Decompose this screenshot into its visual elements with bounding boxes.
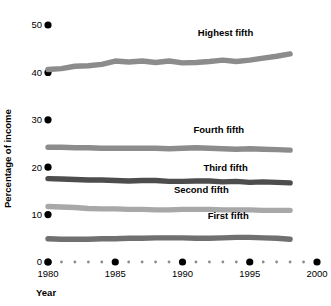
- chart-canvas: Percentage of income 01020304050 1980198…: [0, 0, 331, 306]
- y-tick-label: 40: [31, 67, 42, 78]
- x-axis-ticks: [44, 258, 320, 265]
- x-minor-tick-dot: [168, 261, 171, 264]
- series-label: Highest fifth: [198, 27, 254, 38]
- y-tick-label: 20: [31, 162, 42, 173]
- x-major-tick-dot: [44, 258, 51, 265]
- x-minor-tick-dot: [275, 261, 278, 264]
- series-line: [48, 179, 290, 183]
- x-minor-tick-dot: [141, 261, 144, 264]
- x-tick-label: 2000: [306, 268, 327, 279]
- series-line: [48, 207, 290, 211]
- y-tick-label: 50: [31, 19, 42, 30]
- series-label: Second fifth: [174, 184, 229, 195]
- x-major-tick-dot: [246, 258, 253, 265]
- x-minor-tick-dot: [100, 261, 103, 264]
- x-major-tick-dot: [179, 258, 186, 265]
- x-minor-tick-dot: [208, 261, 211, 264]
- x-major-tick-dot: [313, 258, 320, 265]
- series-labels: Highest fifthFourth fifthThird fifthSeco…: [174, 27, 254, 221]
- y-tick-label: 30: [31, 114, 42, 125]
- series-label: Third fifth: [203, 162, 248, 173]
- x-minor-tick-dot: [127, 261, 130, 264]
- series-line: [48, 54, 290, 70]
- x-minor-tick-dot: [60, 261, 63, 264]
- y-axis-title: Percentage of income: [2, 109, 13, 208]
- y-tick-dot: [44, 21, 51, 28]
- x-minor-tick-dot: [235, 261, 238, 264]
- series-line: [48, 147, 290, 150]
- x-minor-tick-dot: [289, 261, 292, 264]
- x-tick-label: 1985: [105, 268, 126, 279]
- x-minor-tick-dot: [154, 261, 157, 264]
- x-tick-label: 1995: [239, 268, 260, 279]
- y-tick-label: 0: [37, 256, 42, 267]
- x-tick-label: 1980: [37, 268, 58, 279]
- income-share-line-chart: Percentage of income 01020304050 1980198…: [0, 0, 331, 306]
- series-label: First fifth: [208, 210, 249, 221]
- series-lines: [48, 54, 290, 239]
- x-minor-tick-dot: [302, 261, 305, 264]
- y-tick-dot: [44, 116, 51, 123]
- x-axis-title: Year: [36, 287, 56, 298]
- x-minor-tick-dot: [195, 261, 198, 264]
- x-minor-tick-dot: [74, 261, 77, 264]
- y-axis-ticks: 01020304050: [31, 19, 51, 267]
- series-line: [48, 237, 290, 239]
- y-tick-label: 10: [31, 209, 42, 220]
- x-major-tick-dot: [112, 258, 119, 265]
- x-minor-tick-dot: [221, 261, 224, 264]
- x-minor-tick-dot: [87, 261, 90, 264]
- y-tick-dot: [44, 211, 51, 218]
- y-tick-dot: [44, 164, 51, 171]
- x-minor-tick-dot: [262, 261, 265, 264]
- x-axis-tick-labels: 19801985199019952000: [37, 268, 327, 279]
- x-tick-label: 1990: [172, 268, 193, 279]
- series-label: Fourth fifth: [193, 124, 244, 135]
